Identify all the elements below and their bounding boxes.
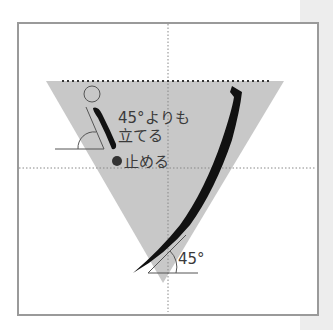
upper-note-line2: 立てる (118, 127, 163, 145)
stop-dot-icon (112, 156, 122, 166)
bottom-angle-label: 45° (178, 250, 205, 268)
upper-note-line1: 45°よりも (118, 109, 190, 127)
stop-note: 止める (124, 153, 169, 171)
